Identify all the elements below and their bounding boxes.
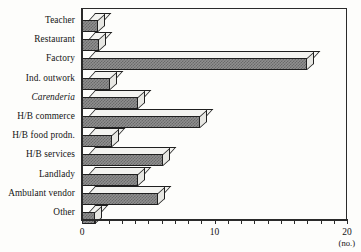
x-tick-label: 10 [210, 227, 220, 237]
bar [82, 49, 315, 70]
bar-top-face [89, 109, 213, 116]
bar [82, 145, 171, 166]
category-label: Carenderia [0, 92, 75, 102]
x-tick [122, 219, 123, 224]
x-tick [307, 219, 308, 224]
x-tick [95, 219, 96, 224]
category-label: Ambulant vendor [0, 188, 75, 198]
x-tick-label: 0 [80, 227, 85, 237]
bar [82, 88, 146, 109]
x-tick [334, 219, 335, 224]
bar [82, 165, 146, 186]
bar [82, 126, 120, 147]
category-label: Restaurant [0, 34, 75, 44]
bar-top-face [89, 128, 126, 135]
x-tick [175, 219, 176, 224]
category-axis-labels: TeacherRestaurantFactoryInd. outworkCare… [0, 0, 79, 214]
x-tick [82, 219, 83, 224]
x-tick [109, 219, 110, 224]
x-tick [321, 219, 322, 224]
bar-top-face [89, 51, 321, 58]
bar-front-face [82, 212, 95, 224]
category-label: H/B food prodn. [0, 130, 75, 140]
category-label: Landlady [0, 169, 75, 179]
category-label: Teacher [0, 15, 75, 25]
x-tick [135, 219, 136, 224]
bar [82, 30, 107, 51]
x-tick [228, 219, 229, 224]
bar [82, 69, 118, 90]
bar [82, 184, 166, 205]
x-tick-label: 20 [342, 227, 352, 237]
x-axis-unit-label: (no.) [339, 238, 355, 248]
y-axis-line [81, 8, 83, 221]
category-label: Other [0, 207, 75, 217]
x-tick [241, 219, 242, 224]
x-tick [254, 219, 255, 224]
category-label: Ind. outwork [0, 73, 75, 83]
x-tick [201, 219, 202, 224]
x-tick [294, 219, 295, 224]
category-label: H/B services [0, 149, 75, 159]
x-tick [162, 219, 163, 224]
x-tick [268, 219, 269, 224]
x-tick [188, 219, 189, 224]
x-tick [281, 219, 282, 224]
plot-area [82, 8, 347, 219]
x-tick [347, 219, 348, 224]
x-tick [148, 219, 149, 224]
category-label: H/B commerce [0, 111, 75, 121]
bar-top-face [89, 71, 123, 78]
category-label: Factory [0, 53, 75, 63]
x-tick [215, 219, 216, 224]
bar [82, 107, 208, 128]
bar [82, 11, 106, 32]
bar-chart: TeacherRestaurantFactoryInd. outworkCare… [0, 0, 361, 252]
